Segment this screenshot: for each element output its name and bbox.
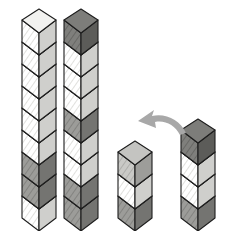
tower-2 bbox=[64, 9, 98, 231]
scene-canvas bbox=[0, 0, 235, 231]
curved-arrow bbox=[138, 110, 186, 135]
tower-4 bbox=[181, 119, 215, 231]
cube-towers-scene bbox=[0, 0, 235, 231]
tower-1 bbox=[22, 9, 56, 231]
tower-3 bbox=[118, 141, 152, 231]
towers-layer bbox=[22, 9, 215, 231]
arrow-layer bbox=[138, 110, 186, 135]
